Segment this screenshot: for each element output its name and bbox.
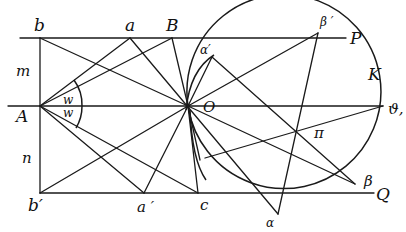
label-a: a	[125, 15, 135, 35]
line-A-a	[40, 38, 130, 106]
line-B-O	[172, 38, 188, 106]
chord-theta-pi-line	[205, 106, 383, 158]
label-pi: π	[313, 124, 325, 142]
line-A-aprime	[40, 106, 144, 193]
label-alpha-prime: α′	[200, 43, 211, 57]
label-B: B	[165, 15, 179, 35]
label-alpha: α	[266, 216, 274, 230]
line-a-O-alpha	[130, 38, 278, 214]
label-a-prime: a ′	[137, 198, 155, 216]
label-A: A	[14, 106, 28, 126]
label-O: O	[203, 98, 215, 116]
label-Q: Q	[376, 184, 390, 204]
label-beta: β	[363, 172, 373, 190]
geometry-diagram: b a B P β ′ α′ K m A w w O ϑ, π n b′ a ′…	[0, 0, 406, 232]
angle-arc-lower	[76, 106, 82, 128]
label-b: b	[34, 15, 45, 35]
label-w-upper: w	[63, 93, 74, 107]
label-n: n	[22, 149, 32, 167]
label-b-prime: b′	[28, 195, 43, 215]
angle-arc-upper	[74, 80, 82, 106]
label-c: c	[200, 196, 209, 214]
label-w-lower: w	[63, 106, 74, 120]
point-O	[186, 104, 190, 108]
label-theta1: ϑ,	[388, 100, 404, 118]
line-A-B	[40, 38, 172, 106]
line-c-O	[188, 106, 198, 193]
label-m: m	[16, 62, 30, 80]
label-beta-prime: β ′	[319, 15, 334, 29]
label-P: P	[349, 28, 362, 48]
label-K: K	[367, 64, 382, 84]
line-O-beta	[188, 106, 355, 184]
